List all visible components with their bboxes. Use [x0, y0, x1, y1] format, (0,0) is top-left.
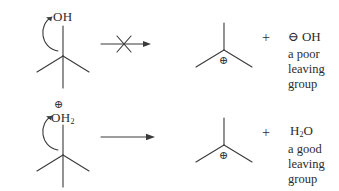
reaction-row-good-leaving-group: ⊕ OH2 ⊕ + H2O [0, 95, 339, 191]
carbocation-charge: ⊕ [219, 55, 228, 66]
plus-separator: + [262, 31, 270, 45]
water-formula-head: H [290, 123, 299, 138]
water-formula-tail: O [303, 123, 312, 138]
reaction-scheme: OH ⊕ [0, 0, 339, 191]
oxonium-formula: OH [51, 110, 70, 125]
oxonium-subscript: 2 [70, 117, 74, 126]
blocked-reaction-arrow [100, 32, 152, 60]
product-structure-tert-butyl-cation [186, 113, 262, 171]
product-structure-tert-butyl-cation [186, 18, 262, 76]
leaving-group-caption-good: a good leaving group [288, 142, 325, 187]
oxonium-label: OH2 [51, 110, 75, 126]
reaction-row-poor-leaving-group: OH ⊕ [0, 0, 339, 96]
forward-reaction-arrow [100, 127, 156, 151]
oxonium-charge: ⊕ [54, 99, 63, 110]
caption-line-1: a poor [288, 47, 325, 62]
leaving-group-caption-poor: a poor leaving group [288, 47, 325, 92]
caption-line-3: group [288, 172, 325, 187]
carbocation-charge: ⊕ [219, 150, 228, 161]
caption-line-2: leaving [288, 157, 325, 172]
hydroxide-formula: OH [302, 29, 321, 44]
leaving-group-species-water: H2O [290, 123, 313, 139]
plus-separator: + [262, 126, 270, 140]
hydroxide-charge: ⊖ [288, 29, 299, 44]
caption-line-2: leaving [288, 62, 325, 77]
leaving-group-species-hydroxide: ⊖OH [288, 29, 321, 45]
caption-line-3: group [288, 77, 325, 92]
caption-line-1: a good [288, 142, 325, 157]
hydroxyl-label: OH [53, 9, 72, 25]
